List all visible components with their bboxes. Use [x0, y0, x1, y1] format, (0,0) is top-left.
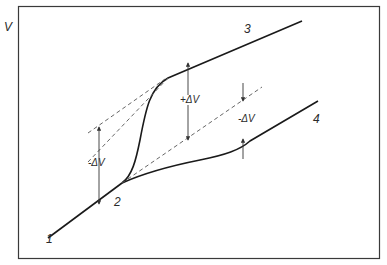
diagram-canvas	[0, 0, 387, 265]
dashed-upper-line	[88, 79, 165, 133]
left-delta-label: -ΔV	[88, 158, 105, 168]
plot-frame	[19, 7, 380, 259]
point-label-3: 3	[244, 23, 251, 35]
point-label-1: 1	[46, 233, 53, 245]
axis-label-v: V	[4, 21, 12, 33]
point-label-2: 2	[114, 196, 121, 208]
dashed-upper-reference	[88, 78, 168, 162]
curve-branch-4	[122, 101, 318, 183]
curve-segment-1-2	[48, 183, 122, 238]
point-label-4: 4	[313, 113, 320, 125]
right-delta-label: -ΔV	[238, 114, 255, 124]
center-delta-label: +ΔV	[180, 95, 199, 105]
curve-branch-3	[122, 21, 302, 183]
